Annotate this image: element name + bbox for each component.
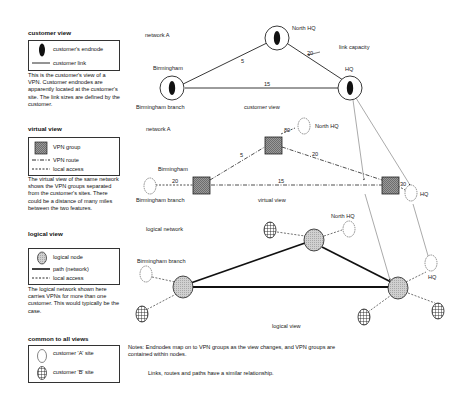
- cv-network-label: network A: [145, 32, 170, 38]
- customer-a-site-birmingham-branch: [140, 266, 152, 282]
- cv-northhq-label: North HQ: [292, 25, 316, 31]
- legend-item-logical-node: logical node: [29, 251, 119, 263]
- link-capacity-annotation: link capacity: [339, 44, 370, 50]
- virtual-view-title: virtual view: [28, 125, 62, 132]
- logical-node-birmingham: [173, 276, 193, 298]
- legend-item-customer-a: customer 'A' site: [29, 348, 119, 364]
- common-title: common to all views: [28, 335, 89, 342]
- customer-a-site-icon: [32, 348, 52, 364]
- endnode-icon: [32, 43, 52, 57]
- legend-item-vpn-group: VPN group: [29, 141, 119, 153]
- common-legend: customer 'A' site customer 'B' site: [28, 345, 120, 383]
- cv-hq-label: HQ: [345, 66, 354, 72]
- customer-a-site-hq: [425, 255, 437, 271]
- dashed-line-icon: [31, 164, 51, 174]
- vv-link-15: 15: [278, 178, 284, 184]
- logical-view-diagram: [136, 221, 444, 325]
- logical-view-description: The logical network shown here carries V…: [28, 286, 120, 315]
- customer-b-site-2: [264, 222, 276, 238]
- vv-network-label: network A: [146, 126, 171, 132]
- customer-view-legend: customer's endnode customer link: [28, 40, 120, 71]
- legend-item-customer-link: customer link: [29, 58, 119, 70]
- virtual-view-description: The virtual view of the same network sho…: [28, 176, 120, 212]
- customer-a-site-hq: [405, 185, 417, 201]
- logical-node-northhq: [304, 229, 324, 251]
- cv-link-20: 20: [307, 50, 313, 56]
- vv-link-20b: 20: [312, 151, 318, 157]
- cv-birmingham-label: Birmingham: [153, 65, 183, 71]
- customer-view-description: This is the customer's view of a VPN. Cu…: [28, 72, 120, 108]
- vpn-group-square-icon: [32, 141, 52, 155]
- vv-northhq-label: North HQ: [315, 123, 339, 129]
- lv-network-label: logical network: [146, 226, 183, 232]
- cv-view-label: customer view: [244, 104, 281, 110]
- vv-view-label: virtual view: [258, 197, 287, 203]
- customer-b-site-4: [432, 303, 444, 319]
- vpn-group-northhq: [265, 137, 282, 154]
- virtual-view-legend: VPN group VPN route local access: [28, 137, 120, 176]
- cv-link-15: 15: [264, 81, 270, 87]
- customer-b-site-3: [358, 309, 370, 325]
- logical-node-hq: [388, 277, 408, 299]
- logical-node-icon: [32, 251, 52, 265]
- solid-line-icon: [31, 58, 51, 68]
- logical-view-legend: logical node path (network) local access: [28, 248, 120, 285]
- vpn-group-hq: [382, 177, 399, 194]
- lv-northhq-label: North HQ: [331, 213, 355, 219]
- vv-branch-label: Birmingham branch: [136, 197, 185, 203]
- customer-view-diagram: [160, 26, 431, 280]
- north-hq-endnode: [265, 26, 289, 50]
- lv-hq-label: HQ: [428, 274, 437, 280]
- legend-item-endnode: customer's endnode: [29, 43, 119, 55]
- customer-b-site-1: [136, 306, 148, 322]
- vpn-group-birmingham: [193, 177, 210, 194]
- hq-endnode: [338, 76, 362, 100]
- customer-a-site-northhq: [298, 118, 310, 134]
- vv-link-80: 80: [284, 127, 290, 133]
- dashed-line-icon: [31, 273, 51, 283]
- lv-view-label: logical view: [272, 323, 302, 329]
- legend-item-local-access: local access: [29, 273, 119, 285]
- vv-link-20a: 20: [172, 178, 178, 184]
- logical-view-title: logical view: [28, 230, 63, 237]
- cv-branch-label: Birmingham branch: [136, 104, 185, 110]
- cv-link-5: 5: [241, 58, 244, 64]
- customer-a-site-birmingham: [144, 178, 156, 194]
- notes-relationship: Links, routes and paths have a similar r…: [148, 370, 274, 376]
- legend-item-local-access: local access: [29, 164, 119, 176]
- customer-b-site-icon: [32, 365, 52, 381]
- vv-hq-label: HQ: [420, 191, 429, 197]
- vv-link-5: 5: [240, 152, 243, 158]
- vv-link-30: 30: [400, 181, 406, 187]
- vv-birmingham-label: Birmingham: [158, 166, 188, 172]
- customer-view-title: customer view: [28, 29, 71, 36]
- legend-item-customer-b: customer 'B' site: [29, 365, 119, 381]
- birmingham-endnode: [160, 76, 184, 100]
- lv-branch-label: Birmingham branch: [137, 258, 186, 264]
- notes-text: Notes: Endnodes map on to VPN groups as …: [128, 344, 358, 358]
- customer-a-site-northhq: [343, 221, 355, 237]
